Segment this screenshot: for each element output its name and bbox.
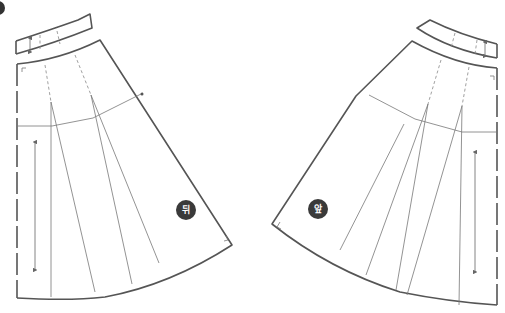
step-number-marker [0,1,5,15]
skirt-pattern-diagram: 뒤 앞 [0,0,505,313]
front-waistband [417,20,497,58]
front-label-badge: 앞 [308,199,328,219]
front-skirt-piece [272,41,497,305]
front-label: 앞 [314,203,323,214]
back-label: 뒤 [182,204,190,215]
back-label-badge: 뒤 [176,200,196,220]
back-skirt-piece [17,40,232,299]
